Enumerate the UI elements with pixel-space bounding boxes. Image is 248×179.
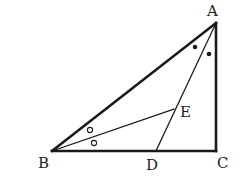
geometry-diagram: A B C D E: [0, 0, 248, 179]
label-b: B: [38, 154, 49, 172]
segment-ab: [52, 23, 216, 151]
filled-dot-icon: [207, 52, 212, 57]
segment-be: [52, 109, 174, 151]
triangle-figure: A B C D E: [0, 0, 248, 179]
segments: [52, 23, 216, 151]
label-d: D: [146, 156, 158, 174]
filled-dot-icon: [193, 45, 198, 50]
label-c: C: [217, 154, 228, 172]
angle-marks: [87, 45, 211, 146]
open-circle-icon: [91, 140, 96, 145]
label-a: A: [206, 2, 218, 20]
label-e: E: [180, 103, 191, 121]
segment-ad: [156, 23, 216, 151]
open-circle-icon: [87, 127, 92, 132]
